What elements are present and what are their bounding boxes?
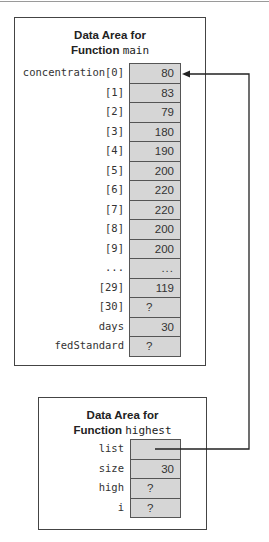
pointer-line [155,74,249,449]
arrowhead-icon [182,71,190,78]
pointer-arrow [0,0,269,542]
